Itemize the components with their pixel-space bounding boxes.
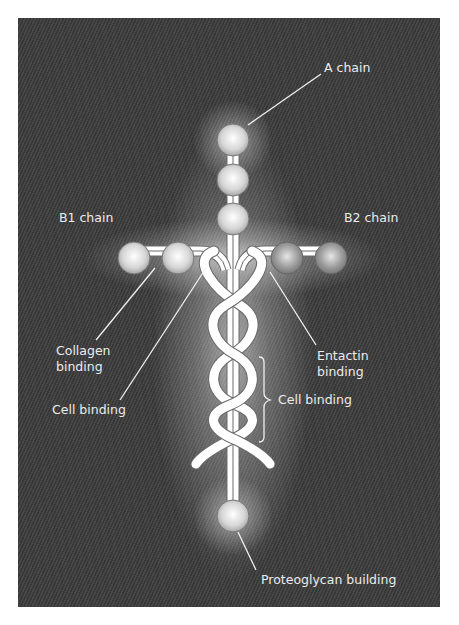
diagram-panel: A chain B1 chain B2 chain Collagen bindi… [18,18,440,607]
b1-chain-sphere [162,242,194,274]
laminin-diagram: A chain B1 chain B2 chain Collagen bindi… [18,18,440,607]
label-b2-chain: B2 chain [344,210,398,225]
label-proteoglycan-building: Proteoglycan building [261,572,396,587]
a-chain-sphere [217,124,249,156]
label-b1-chain: B1 chain [59,210,113,225]
label-collagen-binding-2: binding [56,359,103,374]
a-chain-sphere [217,164,249,196]
proteoglycan-sphere [217,500,249,532]
label-collagen-binding-1: Collagen [56,343,111,358]
label-a-chain: A chain [324,60,370,75]
b2-chain-sphere [271,242,303,274]
a-chain-leader [248,74,321,125]
label-cell-binding-helix: Cell binding [278,392,352,407]
label-cell-binding-left: Cell binding [52,402,126,417]
a-chain-spheres [217,124,249,235]
b2-chain-sphere [315,242,347,274]
label-entactin-binding-2: binding [317,364,364,379]
a-chain-sphere [217,203,249,235]
label-entactin-binding-1: Entactin [317,348,369,363]
b1-chain-sphere [118,242,150,274]
